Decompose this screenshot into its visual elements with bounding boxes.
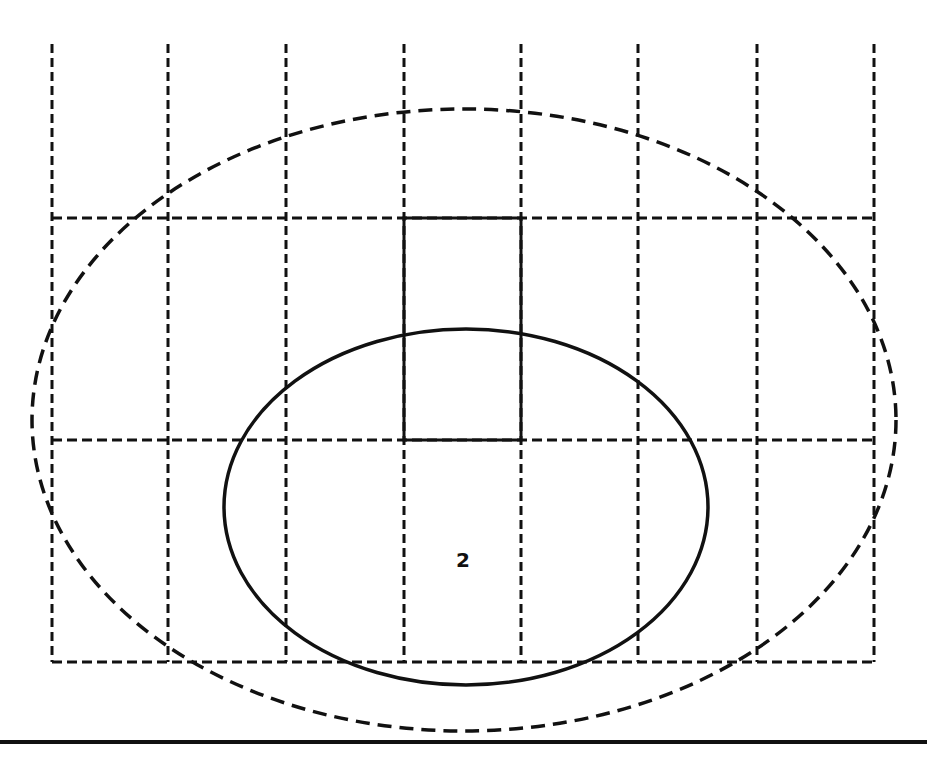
region-label: 2 — [456, 548, 470, 572]
outer-dashed-ellipse — [32, 109, 896, 731]
inner-solid-ellipse — [224, 329, 708, 685]
diagram-canvas — [0, 0, 927, 778]
